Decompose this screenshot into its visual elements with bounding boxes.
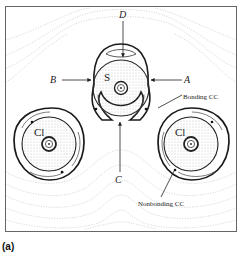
label-chlorine-left: Cl xyxy=(34,126,44,138)
label-bonding-cc: Bonding CC xyxy=(183,93,219,101)
label-d: D xyxy=(118,9,127,20)
label-c: C xyxy=(115,174,122,185)
panel-label: (a) xyxy=(2,241,14,252)
label-b: B xyxy=(50,74,56,85)
laplacian-contour-diagram: D B A C S Cl Cl Bonding CC Nonbonding CC… xyxy=(0,0,243,263)
label-sulfur: S xyxy=(104,71,110,83)
bonding-cc-dot-right xyxy=(145,108,148,111)
label-a: A xyxy=(183,74,191,85)
label-chlorine-right: Cl xyxy=(175,126,185,138)
bonding-cc-dot-left xyxy=(95,108,98,111)
label-nonbonding-cc: Nonbonding CC xyxy=(138,200,184,208)
